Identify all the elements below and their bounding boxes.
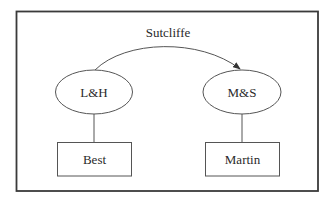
node-best: Best	[58, 143, 132, 177]
node-lh: L&H	[56, 70, 133, 114]
node-martin-label: Martin	[225, 152, 261, 167]
edge-label-sutcliffe: Sutcliffe	[146, 25, 191, 40]
node-martin: Martin	[206, 143, 280, 177]
sutcliffe-arrow	[95, 47, 240, 70]
node-best-label: Best	[83, 152, 107, 167]
node-lh-label: L&H	[80, 85, 107, 100]
node-ms-label: M&S	[228, 85, 257, 100]
node-ms: M&S	[203, 70, 281, 114]
diagram-canvas: Sutcliffe L&H M&S Best Martin	[0, 0, 334, 204]
